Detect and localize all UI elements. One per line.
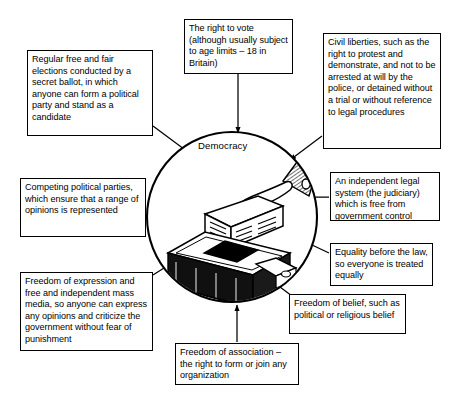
note-competing-parties: Competing political parties, which ensur… [20,178,146,237]
note-freedom-of-association: Freedom of association – the right to fo… [175,343,299,385]
note-right-to-vote: The right to vote (although usually subj… [184,19,293,74]
note-freedom-of-expression: Freedom of expression and free and indep… [20,272,153,351]
note-independent-judiciary: An independent legal system (the judicia… [330,172,440,221]
democracy-diagram: Democracy Regular free and fair election… [0,0,472,407]
note-freedom-of-belief: Freedom of belief, such as political or … [289,294,406,334]
arrow-civil-to-center [290,136,322,160]
note-civil-liberties: Civil liberties, such as the right to pr… [323,33,441,149]
center-label-democracy: Democracy [198,140,247,151]
note-free-fair-elections: Regular free and fair elections conducte… [27,50,153,136]
note-equality-before-law: Equality before the law, so everyone is … [330,243,433,286]
